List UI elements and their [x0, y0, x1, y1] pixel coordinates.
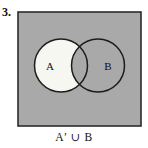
figure-caption: A′ ∪ B: [0, 130, 148, 144]
venn-diagram-graphic: A B: [0, 0, 148, 148]
set-label-b: B: [104, 60, 111, 72]
unshaded-region-a-minus-b: [18, 12, 141, 126]
set-label-a: A: [46, 60, 54, 72]
venn-diagram-figure: 3. A B A′ ∪ B: [0, 0, 148, 148]
